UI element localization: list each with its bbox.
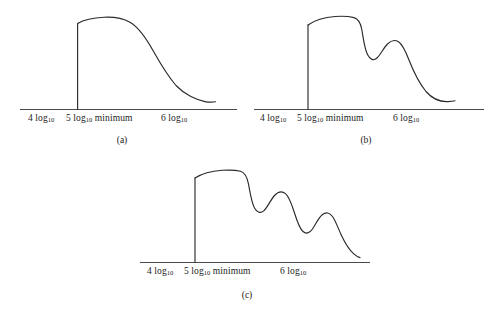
panel-c-tick-label-5-minimum: 5 log10minimum	[184, 266, 251, 276]
panel-b: 4 log10 5 log10minimum 6 log10 (b)	[244, 0, 488, 157]
panel-c-tick-label-6: 6 log10	[280, 266, 306, 276]
panel-b-tick-label-4: 4 log10	[260, 113, 286, 123]
panel-c-caption: (c)	[122, 290, 372, 300]
panel-b-caption: (b)	[244, 135, 488, 145]
panel-a: 4 log10 5 log10minimum 6 log10 (a)	[0, 0, 244, 157]
panel-b-tick-label-6: 6 log10	[393, 113, 419, 123]
panel-a-tick-label-6: 6 log10	[161, 113, 187, 123]
panel-a-tick-label-4: 4 log10	[28, 113, 54, 123]
panel-b-plot	[244, 0, 488, 120]
panel-a-tick-label-5-minimum: 5 log10minimum	[66, 113, 133, 123]
panel-c-curve	[195, 170, 360, 258]
figure-three-panel-decay-curves: 4 log10 5 log10minimum 6 log10 (a) 4 log…	[0, 0, 488, 314]
panel-c-tick-label-4: 4 log10	[147, 266, 173, 276]
panel-c-plot	[122, 157, 372, 269]
panel-b-curve	[308, 16, 455, 101]
panel-a-caption: (a)	[0, 135, 244, 145]
panel-c: 4 log10 5 log10minimum 6 log10 (c)	[122, 157, 372, 314]
panel-a-curve	[78, 17, 216, 102]
panel-b-tick-label-5-minimum: 5 log10minimum	[297, 113, 364, 123]
panel-a-plot	[0, 0, 244, 120]
